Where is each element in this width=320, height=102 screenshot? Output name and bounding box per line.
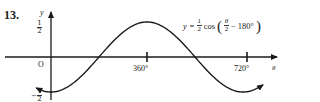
- eq-arg-den: 2: [225, 26, 229, 33]
- eq-close-paren: ): [256, 19, 261, 33]
- eq-minus: −: [231, 21, 236, 31]
- frac-num: 1: [37, 20, 41, 27]
- equation-label: y = 12 cos ( θ2 − 180° ): [183, 18, 261, 33]
- x-tick-label-720: 720°: [234, 64, 249, 73]
- y-axis-label: y: [40, 8, 44, 17]
- eq-open-paren: (: [217, 19, 222, 33]
- frac-num: 1: [37, 88, 41, 95]
- x-tick-label-360: 360°: [133, 64, 148, 73]
- eq-shift: 180°: [238, 21, 254, 31]
- frac-den: 2: [37, 96, 41, 102]
- y-tick-half: 12: [37, 17, 42, 36]
- eq-arg-num: θ: [225, 18, 228, 25]
- eq-coef-num: 1: [197, 18, 201, 25]
- eq-func: cos: [204, 21, 215, 31]
- x-axis-label: θ: [272, 64, 275, 72]
- y-tick-neg-half: − 12: [31, 88, 42, 102]
- eq-coef-den: 2: [197, 26, 201, 33]
- eq-lhs: y =: [183, 21, 195, 31]
- origin-label: O: [38, 60, 44, 69]
- frac-den: 2: [37, 28, 41, 35]
